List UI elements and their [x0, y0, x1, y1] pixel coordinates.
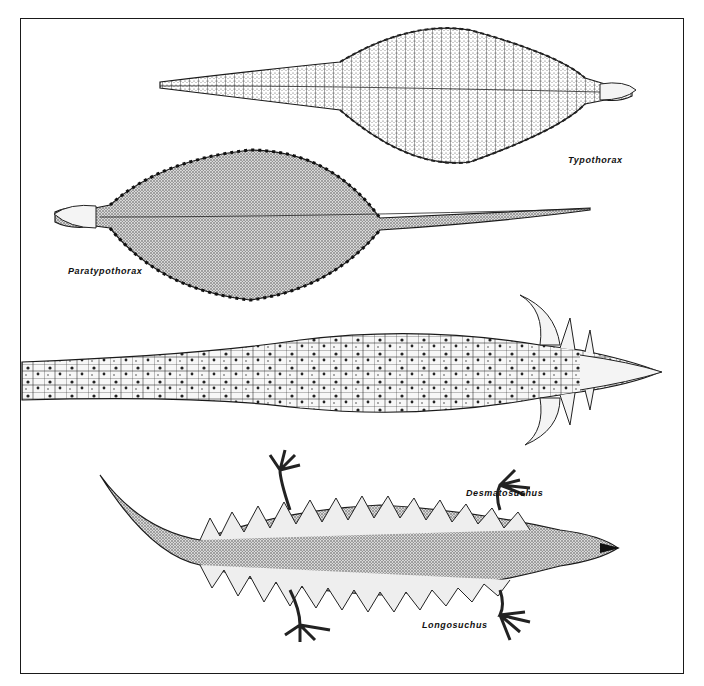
paratypothorax-drawing: [54, 150, 590, 300]
label-paratypothorax: Paratypothorax: [68, 266, 142, 276]
longosuchus-drawing: [100, 450, 620, 642]
label-longosuchus: Longosuchus: [422, 620, 488, 630]
typothorax-drawing: [160, 28, 636, 163]
label-desmatosuchus: Desmatosuchus: [466, 488, 543, 498]
label-typothorax: Typothorax: [568, 155, 623, 165]
aetosaur-illustrations: [0, 0, 704, 686]
desmatosuchus-drawing: [22, 295, 662, 445]
